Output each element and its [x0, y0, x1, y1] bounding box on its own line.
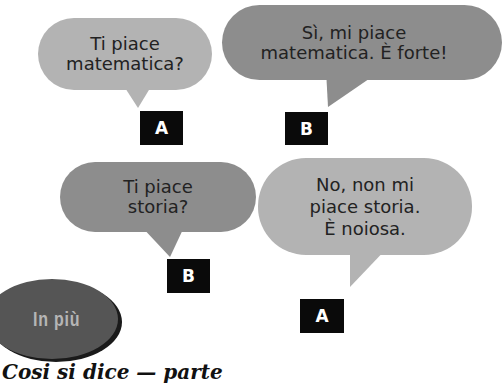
speaker-label-a: A: [300, 299, 344, 333]
bubble-text: No, non mi piace storia. È noiosa.: [310, 174, 421, 240]
speaker-label-a: A: [140, 111, 183, 145]
speaker-label-b: B: [167, 259, 210, 293]
section-heading-cutoff: Cosi si dice — parte: [2, 360, 223, 384]
speech-bubble-b-math-answer: Sì, mi piace matematica. È forte!: [222, 5, 502, 80]
speaker-label-b: B: [285, 112, 328, 145]
in-piu-badge: In più: [0, 279, 118, 359]
speech-bubble-b-history-question: Ti piace storia?: [60, 162, 256, 232]
bubble-text: Ti piace matematica?: [66, 34, 184, 74]
badge-label: In più: [33, 308, 80, 331]
bubble-text: Ti piace storia?: [123, 177, 193, 217]
speech-bubble-a-history-answer: No, non mi piace storia. È noiosa.: [258, 158, 472, 255]
speech-bubble-a-math-question: Ti piace matematica?: [38, 18, 212, 90]
bubble-text: Sì, mi piace matematica. È forte!: [261, 23, 448, 63]
